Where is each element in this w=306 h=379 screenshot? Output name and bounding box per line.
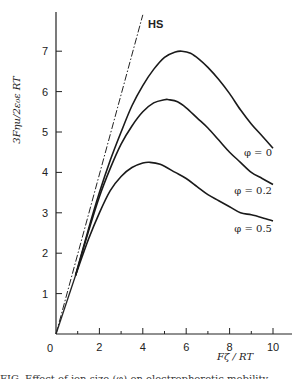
y-ticks: 1234567 [42, 45, 62, 299]
chart: 246810 1234567 0 Fζ / RT 3Fηu/2ε₀ε RT HS… [0, 0, 306, 379]
hs-reference-line [56, 15, 143, 334]
y-tick-label: 6 [42, 86, 48, 98]
hs-label: HS [148, 18, 163, 30]
x-tick-label: 10 [267, 341, 279, 353]
initial-segment [56, 275, 76, 334]
x-tick-label: 2 [96, 341, 102, 353]
label-phi-0-2: φ = 0.2 [234, 185, 272, 196]
y-tick-label: 1 [42, 288, 48, 300]
x-axis-label: Fζ / RT [216, 351, 254, 362]
y-tick-label: 4 [42, 166, 48, 178]
axes [56, 12, 292, 334]
x-tick-label: 4 [140, 341, 146, 353]
figure-caption: FIG. Effect of ion size (φ) on electroph… [0, 370, 306, 379]
label-phi-0: φ = 0 [244, 147, 272, 158]
x-ticks: 246810 [78, 328, 279, 353]
y-tick-label: 2 [42, 247, 48, 259]
y-tick-label: 7 [42, 45, 48, 57]
origin-label: 0 [47, 342, 53, 354]
y-axis-label: 3Fηu/2ε₀ε RT [11, 75, 22, 144]
y-tick-label: 3 [42, 207, 48, 219]
label-phi-0-5: φ = 0.5 [234, 223, 272, 234]
series-group [56, 15, 273, 334]
x-tick-label: 6 [183, 341, 189, 353]
series-curve-0 [76, 51, 273, 275]
y-tick-label: 5 [42, 126, 48, 138]
